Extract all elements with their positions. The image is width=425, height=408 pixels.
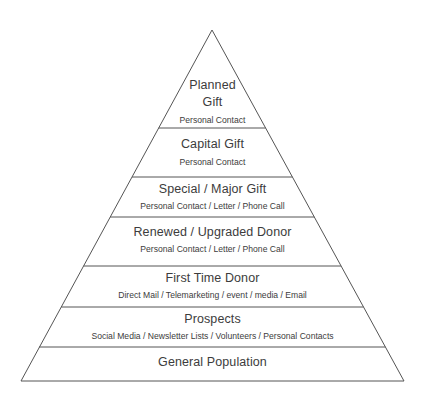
tier-subtitle: Personal Contact <box>0 157 425 168</box>
tier-subtitle: Direct Mail / Telemarketing / event / me… <box>0 290 425 301</box>
tier-special-major-gift: Special / Major Gift Personal Contact / … <box>0 182 425 212</box>
tier-title: Planned <box>0 78 425 93</box>
tier-planned-gift: Planned Gift Personal Contact <box>0 78 425 126</box>
tier-prospects: Prospects Social Media / Newsletter List… <box>0 312 425 342</box>
tier-subtitle: Personal Contact / Letter / Phone Call <box>0 201 425 212</box>
tier-title: Renewed / Upgraded Donor <box>0 225 425 240</box>
tier-title: Gift <box>0 95 425 110</box>
tier-subtitle: Personal Contact / Letter / Phone Call <box>0 244 425 255</box>
tier-title: Capital Gift <box>0 137 425 152</box>
tier-capital-gift: Capital Gift Personal Contact <box>0 137 425 168</box>
tier-title: Special / Major Gift <box>0 182 425 197</box>
tier-first-time-donor: First Time Donor Direct Mail / Telemarke… <box>0 271 425 301</box>
tier-subtitle: Social Media / Newsletter Lists / Volunt… <box>0 331 425 342</box>
tier-general-population: General Population <box>0 355 425 370</box>
tier-title: Prospects <box>0 312 425 327</box>
donor-pyramid-diagram: Planned Gift Personal Contact Capital Gi… <box>0 0 425 408</box>
tier-title: First Time Donor <box>0 271 425 286</box>
tier-subtitle: Personal Contact <box>0 115 425 126</box>
tier-renewed-upgraded-donor: Renewed / Upgraded Donor Personal Contac… <box>0 225 425 255</box>
tier-title: General Population <box>0 355 425 370</box>
